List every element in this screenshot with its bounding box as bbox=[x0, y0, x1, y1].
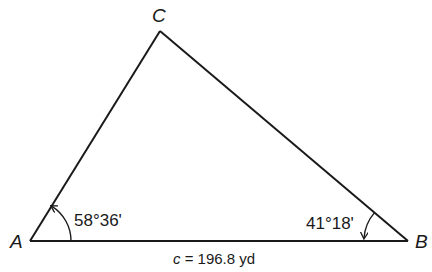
angle-arc-a bbox=[52, 206, 71, 241]
side-ac bbox=[30, 31, 160, 241]
side-bc bbox=[160, 31, 408, 241]
angle-arc-b bbox=[364, 213, 375, 238]
angle-label-a: 58°36' bbox=[74, 211, 122, 230]
side-label-c: c = 196.8 yd bbox=[173, 250, 255, 267]
side-length-c: = 196.8 yd bbox=[181, 250, 256, 267]
angle-label-b: 41°18' bbox=[306, 214, 354, 233]
triangle-diagram: A B C 58°36' 41°18' c = 196.8 yd bbox=[0, 0, 432, 272]
vertex-label-c: C bbox=[152, 5, 166, 26]
vertex-label-b: B bbox=[415, 231, 428, 252]
vertex-label-a: A bbox=[9, 231, 23, 252]
